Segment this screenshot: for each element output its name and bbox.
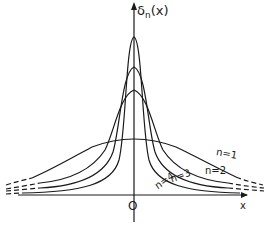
curve-n3-tail-left	[6, 188, 40, 191]
curve-n3-tail-right	[228, 188, 264, 191]
x-axis-label: x	[240, 201, 246, 211]
delta-sequence-diagram	[0, 0, 269, 229]
curve-n1-tail-left	[6, 178, 32, 185]
curve-n1-tail-right	[236, 177, 263, 185]
curve-label-n2: n=2	[205, 166, 226, 176]
curve-n2-tail-right	[228, 183, 264, 188]
origin-label: O	[128, 200, 137, 212]
curve-n4-tail-left	[6, 193, 22, 194]
x-axis-arrow-icon	[241, 192, 248, 198]
y-axis-label: δn(x)	[137, 4, 169, 20]
